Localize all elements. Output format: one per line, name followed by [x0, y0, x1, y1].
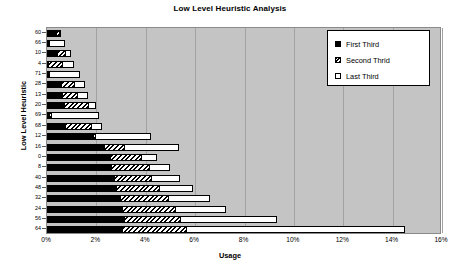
bar-row [47, 206, 226, 213]
y-axis-tick [42, 208, 46, 209]
y-axis-tick-label: 40 [35, 174, 41, 181]
bar-segment-first [47, 164, 111, 171]
y-axis-tick [42, 42, 46, 43]
bar-segment-second [122, 206, 175, 213]
y-axis-tick-label: 71 [35, 70, 41, 77]
legend-swatch-second [335, 57, 341, 63]
y-axis-tick [42, 166, 46, 167]
y-axis-tick [42, 94, 46, 95]
bar-segment-first [47, 92, 62, 99]
bar-segment-second [111, 164, 149, 171]
y-axis-tick [42, 146, 46, 147]
x-axis-tick-label: 14% [377, 236, 407, 243]
y-axis-tick-label: 12 [35, 132, 41, 139]
bar-segment-last [95, 133, 151, 140]
chart-container: Low Level Heuristic Analysis 60661047128… [0, 0, 460, 269]
x-axis-tick-label: 2% [80, 236, 110, 243]
y-axis-tick-label: 20 [35, 101, 41, 108]
y-axis-tick [42, 125, 46, 126]
y-axis-tick-label: 60 [35, 29, 41, 36]
bar-segment-first [47, 226, 122, 233]
x-axis-tick-label: 12% [327, 236, 357, 243]
bar-segment-first [47, 195, 120, 202]
y-axis-tick [42, 83, 46, 84]
x-axis-tick-label: 6% [179, 236, 209, 243]
y-axis-tick-label: 4 [38, 60, 41, 67]
chart-legend: First ThirdSecond ThridLast Third [327, 30, 430, 86]
bar-segment-second [114, 175, 151, 182]
bar-segment-first [47, 206, 122, 213]
y-axis-tick-label: 0 [38, 153, 41, 160]
y-axis-tick-label: 56 [35, 215, 41, 222]
y-axis-tick-label: 68 [35, 122, 41, 129]
legend-label: First Third [346, 40, 379, 49]
y-axis-tick [42, 63, 46, 64]
bar-segment-first [47, 123, 65, 130]
y-axis-tick-label: 24 [35, 205, 41, 212]
bar-segment-last [49, 40, 64, 47]
legend-item[interactable]: First Third [335, 36, 429, 52]
bar-row [47, 30, 61, 37]
bar-row [47, 175, 180, 182]
bar-row [47, 195, 210, 202]
bar-row [47, 50, 71, 57]
bar-segment-last [49, 71, 80, 78]
bar-segment-second [62, 92, 77, 99]
legend-item[interactable]: Last Third [335, 68, 429, 84]
bar-segment-last [74, 81, 84, 88]
bar-segment-last [77, 92, 88, 99]
bar-segment-last [180, 216, 276, 223]
y-axis-tick-label: 16 [35, 143, 41, 150]
y-axis-tick-label: 64 [35, 225, 41, 232]
y-axis-tick-label: 10 [35, 49, 41, 56]
y-axis-tick [42, 32, 46, 33]
bar-segment-second [122, 226, 186, 233]
y-axis-tick [42, 197, 46, 198]
gridline [442, 28, 443, 233]
bar-segment-first [47, 154, 110, 161]
y-axis-tick-label: 32 [35, 194, 41, 201]
bar-segment-last [65, 50, 71, 57]
bar-segment-last [91, 123, 102, 130]
bar-row [47, 164, 170, 171]
bar-segment-last [88, 102, 97, 109]
bar-segment-second [124, 216, 181, 223]
bar-row [47, 123, 102, 130]
bar-row [47, 102, 96, 109]
y-axis-title: Low Level Heuristic [19, 46, 28, 186]
bar-segment-first [47, 175, 114, 182]
y-axis-tick [42, 135, 46, 136]
bar-segment-second [120, 195, 168, 202]
x-axis-tick-label: 8% [229, 236, 259, 243]
y-axis-tick-label: 28 [35, 80, 41, 87]
bar-segment-second [110, 154, 141, 161]
bar-segment-last [51, 112, 99, 119]
x-axis-tick-label: 4% [130, 236, 160, 243]
bar-segment-second [61, 81, 75, 88]
bar-segment-second [116, 185, 159, 192]
bar-row [47, 71, 80, 78]
y-axis-tick-label: 66 [35, 39, 41, 46]
bar-segment-first [47, 30, 56, 37]
bar-segment-second [57, 50, 64, 57]
bar-segment-last [151, 175, 181, 182]
y-axis-tick [42, 73, 46, 74]
bar-segment-last [159, 185, 192, 192]
bar-segment-first [47, 133, 93, 140]
bar-row [47, 185, 193, 192]
y-axis-tick [42, 228, 46, 229]
bar-segment-last [124, 144, 180, 151]
bar-segment-second [65, 123, 91, 130]
bar-segment-first [47, 185, 116, 192]
y-axis-tick [42, 187, 46, 188]
bar-segment-first [47, 50, 57, 57]
bar-segment-last [59, 30, 61, 37]
legend-swatch-first [335, 41, 341, 47]
bar-segment-last [186, 226, 404, 233]
y-axis-tick-label: 13 [35, 91, 41, 98]
y-axis-tick [42, 177, 46, 178]
legend-item[interactable]: Second Thrid [335, 52, 429, 68]
bar-segment-first [47, 216, 124, 223]
legend-label: Second Thrid [346, 56, 390, 65]
y-axis-tick [42, 52, 46, 53]
